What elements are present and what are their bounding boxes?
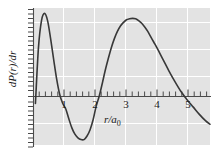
xtick-label-5: 5 (181, 98, 195, 110)
radial-probability-chart: 1 2 3 4 5 r/a0 dP(r)/dr (0, 0, 222, 168)
x-axis-title: r/a0 (104, 113, 121, 128)
gridline-horizontal (33, 22, 210, 23)
xtick-label-3: 3 (119, 98, 133, 110)
xtick-label-1: 1 (57, 98, 71, 110)
x-axis-title-subscript: 0 (117, 119, 121, 128)
y-axis-title: dP(r)/dr (6, 33, 18, 105)
gridline-horizontal (33, 49, 210, 50)
xtick-label-2: 2 (88, 98, 102, 110)
x-axis-title-main: r/a (104, 113, 117, 125)
plot-area (33, 8, 210, 145)
gridline-horizontal (33, 76, 210, 77)
xtick-label-4: 4 (150, 98, 164, 110)
gridline-horizontal (33, 123, 210, 124)
